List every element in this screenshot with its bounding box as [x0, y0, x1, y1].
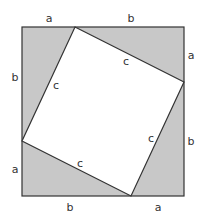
label-top-b: b: [128, 12, 135, 25]
pythagoras-diagram: a b a b b a b a c c c c: [0, 0, 207, 223]
label-bottom-b: b: [67, 201, 74, 214]
label-bottom-a: a: [155, 201, 162, 214]
label-c-left: c: [53, 79, 59, 92]
label-c-top: c: [123, 55, 129, 68]
label-right-a: a: [188, 49, 195, 62]
label-c-bottom: c: [77, 157, 83, 170]
label-c-right: c: [148, 132, 154, 145]
label-right-b: b: [188, 135, 195, 148]
label-left-b: b: [12, 71, 19, 84]
label-top-a: a: [46, 12, 53, 25]
label-left-a: a: [12, 163, 19, 176]
